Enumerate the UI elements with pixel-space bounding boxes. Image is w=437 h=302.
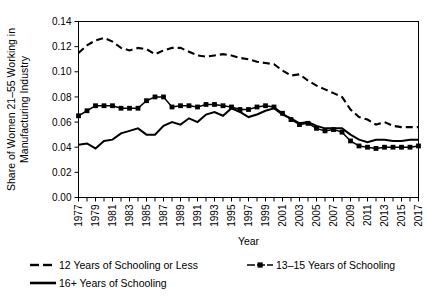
y-axis-ticks: 0.000.020.040.060.080.100.120.14 [52, 16, 78, 203]
series-marker [93, 103, 98, 108]
x-axis-title: Year [238, 235, 260, 247]
series-marker [399, 145, 404, 150]
y-tick-label: 0.02 [52, 167, 72, 178]
series-marker [357, 144, 362, 149]
series-marker [408, 145, 413, 150]
x-tick-label: 2001 [277, 204, 288, 227]
y-axis-title-line: Share of Women 21–55 Working in [5, 28, 17, 191]
legend-label: 13–15 Years of Schooling [276, 259, 395, 271]
x-axis-ticks: 1977197919811983198519871989199119931995… [73, 198, 424, 227]
series-line-1 [79, 97, 419, 149]
x-tick-label: 1995 [226, 204, 237, 227]
x-tick-label: 2007 [328, 204, 339, 227]
series-marker [246, 107, 251, 112]
series-marker [374, 146, 379, 151]
legend-label: 12 Years of Schooling or Less [59, 259, 198, 271]
series-marker [263, 103, 268, 108]
x-tick-label: 1983 [124, 204, 135, 227]
legend-swatch-marker [258, 262, 263, 267]
y-tick-label: 0.12 [52, 41, 72, 52]
legend-entry: 13–15 Years of Schooling [247, 259, 395, 271]
series-marker [127, 106, 132, 111]
chart-legend: 12 Years of Schooling or Less13–15 Years… [30, 259, 395, 289]
x-tick-label: 2015 [396, 204, 407, 227]
series-marker [102, 103, 107, 108]
y-tick-label: 0.04 [52, 142, 72, 153]
x-tick-label: 1989 [175, 204, 186, 227]
series-marker [178, 103, 183, 108]
series-marker [416, 144, 421, 149]
series-marker [365, 145, 370, 150]
series-marker [195, 105, 200, 110]
series-marker [255, 105, 260, 110]
series-marker [204, 102, 209, 107]
series-marker [161, 95, 166, 100]
y-tick-label: 0.00 [52, 192, 72, 203]
x-tick-label: 1991 [192, 204, 203, 227]
x-tick-label: 2017 [413, 204, 424, 227]
y-tick-label: 0.14 [52, 16, 72, 27]
x-tick-label: 1997 [243, 204, 254, 227]
series-line-2 [79, 108, 419, 148]
series-marker [187, 103, 192, 108]
y-tick-label: 0.10 [52, 66, 72, 77]
x-tick-label: 2005 [311, 204, 322, 227]
x-tick-label: 2009 [345, 204, 356, 227]
series-marker [170, 105, 175, 110]
data-series-group [76, 38, 421, 151]
series-marker [76, 113, 81, 118]
legend-entry: 12 Years of Schooling or Less [30, 259, 198, 271]
x-tick-label: 1993 [209, 204, 220, 227]
x-tick-label: 1977 [73, 204, 84, 227]
series-marker [136, 106, 141, 111]
x-tick-label: 2011 [362, 204, 373, 226]
series-marker [348, 139, 353, 144]
legend-entry: 16+ Years of Schooling [30, 277, 167, 289]
y-axis-title: Share of Women 21–55 Working inManufactu… [5, 28, 30, 191]
y-tick-label: 0.06 [52, 117, 72, 128]
series-marker [391, 145, 396, 150]
series-marker [221, 103, 226, 108]
x-tick-label: 1985 [141, 204, 152, 227]
x-tick-label: 1987 [158, 204, 169, 227]
x-tick-label: 2013 [379, 204, 390, 227]
x-tick-label: 1999 [260, 204, 271, 227]
legend-label: 16+ Years of Schooling [59, 277, 167, 289]
x-tick-label: 1979 [90, 204, 101, 227]
series-marker [212, 102, 217, 107]
chart-figure: 0.000.020.040.060.080.100.120.14 1977197… [0, 0, 437, 302]
x-tick-label: 2003 [294, 204, 305, 227]
y-axis-title-line: Manufacturing Industry [18, 55, 30, 163]
y-tick-label: 0.08 [52, 92, 72, 103]
manufacturing-share-line-chart: 0.000.020.040.060.080.100.120.14 1977197… [0, 0, 437, 302]
series-marker [119, 106, 124, 111]
series-marker [110, 103, 115, 108]
series-marker [144, 98, 149, 103]
x-tick-label: 1981 [107, 204, 118, 227]
series-line-0 [79, 38, 419, 127]
series-marker [153, 95, 158, 100]
series-marker [382, 145, 387, 150]
series-marker [85, 108, 90, 113]
